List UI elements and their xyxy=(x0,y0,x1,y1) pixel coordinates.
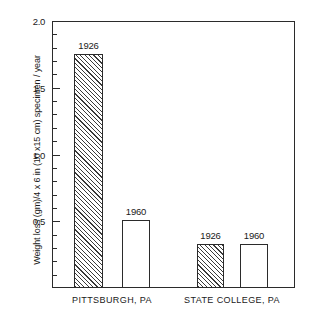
y-tick-label: 1.5 xyxy=(5,82,45,93)
y-tick-minor xyxy=(52,141,57,142)
bar-value-label: 1960 xyxy=(126,206,146,217)
bar xyxy=(122,220,150,288)
bar xyxy=(74,54,103,288)
y-tick-major xyxy=(52,221,60,222)
y-tick-minor xyxy=(52,101,57,102)
y-tick-major xyxy=(52,155,60,156)
y-tick-label: 0.5 xyxy=(5,216,45,227)
x-axis-group-label: STATE COLLEGE, PA xyxy=(184,295,280,305)
y-tick-minor xyxy=(52,168,57,169)
y-tick-minor xyxy=(52,261,57,262)
y-axis-title: Weight loss (gm)/4 x 6 in (10 x15 cm) sp… xyxy=(32,35,42,285)
y-tick-major xyxy=(52,88,60,89)
bar-value-label: 1926 xyxy=(200,230,220,241)
y-tick-major xyxy=(52,21,60,22)
y-tick-minor xyxy=(52,34,57,35)
y-tick-minor xyxy=(52,128,57,129)
y-tick-minor xyxy=(52,181,57,182)
y-tick-minor xyxy=(52,248,57,249)
x-axis-group-label: PITTSBURGH, PA xyxy=(72,295,152,305)
y-tick-label: 1.0 xyxy=(5,149,45,160)
y-tick-minor xyxy=(52,235,57,236)
bar xyxy=(197,244,224,288)
y-tick-minor xyxy=(52,74,57,75)
bar-chart: Weight loss (gm)/4 x 6 in (10 x15 cm) sp… xyxy=(0,0,312,321)
y-tick-minor xyxy=(52,208,57,209)
bar-value-label: 1926 xyxy=(78,40,98,51)
y-tick-minor xyxy=(52,48,57,49)
bar xyxy=(240,244,268,288)
y-tick-minor xyxy=(52,195,57,196)
y-tick-minor xyxy=(52,275,57,276)
bar-value-label: 1960 xyxy=(244,230,264,241)
y-tick-minor xyxy=(52,61,57,62)
y-tick-minor xyxy=(52,114,57,115)
y-tick-label: 2.0 xyxy=(5,16,45,27)
